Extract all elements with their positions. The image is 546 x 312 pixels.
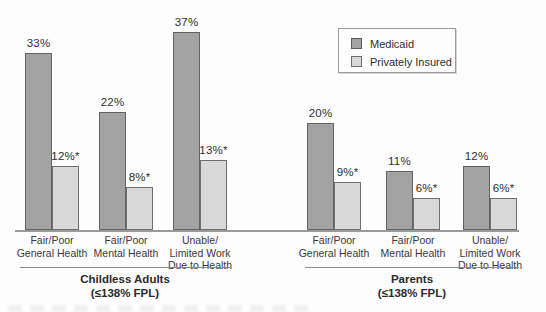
- privately-insured-swatch-icon: [351, 56, 362, 67]
- group-underline: [305, 267, 519, 268]
- chart-figure: 33%12%*Fair/PoorGeneral Health22%8%*Fair…: [0, 0, 546, 312]
- bar-value-label: 12%: [445, 150, 509, 162]
- bar-privately-insured: [126, 187, 153, 230]
- group-label: Childless Adults(≤138% FPL): [20, 272, 230, 300]
- bar-value-label: 8%*: [108, 171, 172, 183]
- bar-privately-insured: [200, 160, 227, 230]
- legend-label-medicaid: Medicaid: [370, 38, 414, 50]
- medicaid-swatch-icon: [351, 38, 362, 49]
- grouped-bar-chart: 33%12%*Fair/PoorGeneral Health22%8%*Fair…: [0, 0, 546, 312]
- bar-medicaid: [386, 171, 413, 230]
- bar-value-label: 22%: [81, 96, 145, 108]
- bar-value-label: 20%: [289, 107, 353, 119]
- legend-item-medicaid: Medicaid: [351, 37, 414, 50]
- bar-medicaid: [25, 53, 52, 230]
- legend-label-privately-insured: Privately Insured: [370, 56, 452, 68]
- bar-medicaid: [463, 166, 490, 230]
- bar-value-label: 12%*: [34, 150, 98, 162]
- bar-value-label: 6%*: [472, 182, 536, 194]
- bar-medicaid: [173, 32, 200, 230]
- bar-value-label: 11%: [368, 155, 432, 167]
- cropped-footnote-artifact: [8, 305, 308, 312]
- group-underline: [20, 267, 230, 268]
- bar-value-label: 9%*: [316, 166, 380, 178]
- category-label: Unable/Limited WorkDue to Health: [438, 234, 542, 272]
- legend-box: Medicaid Privately Insured: [338, 28, 456, 73]
- group-label: Parents(≤138% FPL): [305, 272, 519, 300]
- bar-privately-insured: [490, 198, 517, 230]
- x-axis-line: [15, 230, 519, 232]
- category-label: Unable/Limited WorkDue to Health: [148, 234, 252, 272]
- bar-privately-insured: [52, 166, 79, 230]
- bar-value-label: 37%: [155, 16, 219, 28]
- bar-privately-insured: [413, 198, 440, 230]
- bar-value-label: 33%: [7, 37, 71, 49]
- bar-value-label: 6%*: [395, 182, 459, 194]
- bar-value-label: 13%*: [182, 144, 246, 156]
- legend-item-privately-insured: Privately Insured: [351, 55, 452, 68]
- bar-privately-insured: [334, 182, 361, 230]
